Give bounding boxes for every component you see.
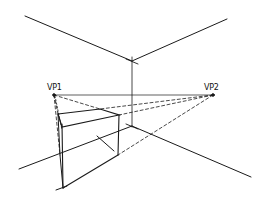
box-bottom-edge bbox=[63, 155, 118, 188]
projection-line bbox=[119, 95, 213, 115]
floor-right-edge bbox=[132, 126, 251, 177]
box-base-tick bbox=[56, 186, 67, 190]
perspective-diagram bbox=[0, 0, 264, 207]
ceiling-right-edge bbox=[132, 19, 227, 61]
box-inner-edge bbox=[97, 136, 114, 151]
vp2-label: VP2 bbox=[204, 83, 219, 92]
projection-line bbox=[54, 95, 100, 109]
vp1-point bbox=[53, 94, 56, 97]
ceiling-left-edge bbox=[25, 16, 132, 61]
vp2-point bbox=[212, 94, 215, 97]
box-top-face bbox=[58, 109, 119, 127]
box-right-edge bbox=[118, 115, 119, 155]
vp1-label: VP1 bbox=[47, 83, 62, 92]
floor-left-edge bbox=[19, 126, 132, 169]
